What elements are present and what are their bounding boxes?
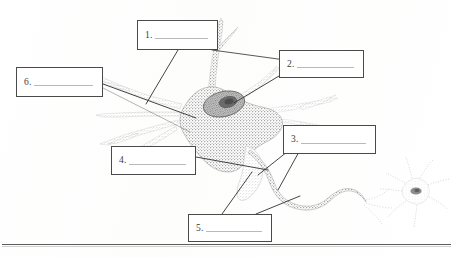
label-blank-6[interactable] xyxy=(34,78,93,86)
leader-line-1 xyxy=(146,50,178,104)
label-blank-5[interactable] xyxy=(206,224,262,232)
label-blank-2[interactable] xyxy=(297,60,354,68)
worksheet-page: 1. 2. 3. 4. 5. 6. xyxy=(0,0,453,257)
label-number-6: 6. xyxy=(24,77,32,88)
label-box-3[interactable]: 3. xyxy=(283,125,376,154)
label-number-5: 5. xyxy=(196,223,204,234)
page-divider-rule xyxy=(2,244,451,245)
label-box-6[interactable]: 6. xyxy=(16,67,103,97)
label-box-2[interactable]: 2. xyxy=(279,50,364,78)
label-box-4[interactable]: 4. xyxy=(111,146,196,175)
label-box-1[interactable]: 1. xyxy=(137,20,218,50)
label-blank-3[interactable] xyxy=(301,136,366,144)
leader-line-2 xyxy=(234,76,279,103)
label-number-1: 1. xyxy=(145,30,153,41)
axon xyxy=(248,150,392,224)
label-number-3: 3. xyxy=(291,134,299,145)
label-blank-1[interactable] xyxy=(155,31,208,39)
label-number-2: 2. xyxy=(287,59,295,70)
label-blank-4[interactable] xyxy=(129,157,186,165)
label-number-4: 4. xyxy=(119,155,127,166)
label-box-5[interactable]: 5. xyxy=(188,214,272,242)
adjacent-neuron xyxy=(380,157,450,228)
page-divider-rule-shadow xyxy=(2,246,451,247)
